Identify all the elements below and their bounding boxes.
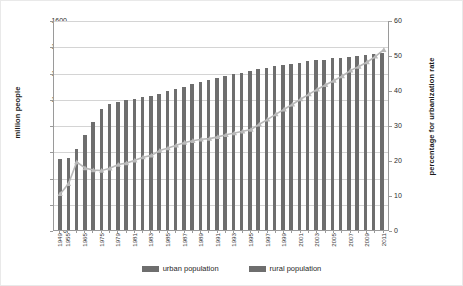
- bar-slot: [89, 21, 97, 230]
- right-axis-tick-mark: [389, 21, 392, 22]
- x-axis-tick-labels: 1949195519651975197919811983198519871989…: [53, 232, 389, 262]
- bar-slot: [155, 21, 163, 230]
- bar-slot: [337, 21, 345, 230]
- x-axis-tick-mark: [126, 231, 127, 233]
- bar-slot: [287, 21, 295, 230]
- right-axis-tick-label: 50: [394, 52, 424, 59]
- x-axis-tick-label: 1993: [230, 233, 237, 247]
- bar: [207, 80, 210, 230]
- bar: [108, 104, 111, 230]
- bar: [240, 73, 243, 230]
- legend-swatch: [142, 266, 159, 272]
- x-tick-slot: 1991: [213, 232, 221, 262]
- bar-slot: [97, 21, 105, 230]
- x-tick-slot: [138, 232, 146, 262]
- bar: [281, 65, 284, 230]
- right-axis-tick-mark: [389, 56, 392, 57]
- right-axis-tick-label: 30: [394, 122, 424, 129]
- bar: [199, 82, 202, 230]
- x-tick-slot: [171, 232, 179, 262]
- bar: [314, 60, 317, 230]
- x-axis-tick-mark: [142, 231, 143, 233]
- x-tick-slot: 1965: [80, 232, 88, 262]
- bar-slot: [295, 21, 303, 230]
- x-tick-slot: 1983: [146, 232, 154, 262]
- bar: [116, 102, 119, 230]
- right-axis-tick-label: 20: [394, 157, 424, 164]
- x-axis-tick-label: 1997: [263, 233, 270, 247]
- x-axis-tick-mark: [159, 231, 160, 233]
- x-tick-slot: [105, 232, 113, 262]
- x-tick-slot: [370, 232, 378, 262]
- bar-slot: [312, 21, 320, 230]
- x-tick-slot: 1993: [229, 232, 237, 262]
- right-axis-tick-mark: [389, 196, 392, 197]
- bar: [306, 61, 309, 230]
- x-tick-slot: 2011: [379, 232, 387, 262]
- chart-container: million people percentage for urbanizati…: [0, 0, 463, 286]
- bar: [190, 84, 193, 230]
- bar-slot: [246, 21, 254, 230]
- x-tick-slot: [238, 232, 246, 262]
- x-axis-tick-label: 1999: [280, 233, 287, 247]
- bar-slot: [81, 21, 89, 230]
- bar-slot: [304, 21, 312, 230]
- x-tick-slot: [271, 232, 279, 262]
- legend-label: rural population: [270, 264, 322, 273]
- bar-slot: [345, 21, 353, 230]
- bar: [372, 54, 375, 230]
- x-tick-slot: 1999: [279, 232, 287, 262]
- bar: [67, 158, 70, 230]
- bar: [124, 100, 127, 230]
- x-axis-tick-mark: [208, 231, 209, 233]
- legend-item[interactable]: rural population: [249, 264, 322, 273]
- bar: [248, 71, 251, 230]
- x-axis-tick-mark: [242, 231, 243, 233]
- x-axis-tick-label: 2003: [313, 233, 320, 247]
- x-tick-slot: 1997: [262, 232, 270, 262]
- left-axis-title: million people: [13, 65, 22, 161]
- bar-slot: [196, 21, 204, 230]
- x-axis-tick-label: 1983: [147, 233, 154, 247]
- x-tick-slot: 2009: [362, 232, 370, 262]
- x-axis-tick-mark: [374, 231, 375, 233]
- bar: [215, 78, 218, 230]
- x-axis-tick-mark: [275, 231, 276, 233]
- bar-slot: [238, 21, 246, 230]
- bar-slot: [279, 21, 287, 230]
- x-axis-tick-label: 1987: [180, 233, 187, 247]
- x-tick-slot: [321, 232, 329, 262]
- x-axis-tick-label: 1991: [213, 233, 220, 247]
- x-tick-slot: 1955: [63, 232, 71, 262]
- bar-slot: [320, 21, 328, 230]
- bar: [166, 91, 169, 230]
- bar-slot: [378, 21, 386, 230]
- bar-slot: [361, 21, 369, 230]
- x-tick-slot: 1949: [55, 232, 63, 262]
- bar: [289, 64, 292, 230]
- right-axis-tick-label: 10: [394, 192, 424, 199]
- bar: [256, 69, 259, 230]
- x-tick-slot: [221, 232, 229, 262]
- x-axis-tick-label: 2011: [379, 233, 386, 246]
- bar-slot: [221, 21, 229, 230]
- legend-label: urban population: [163, 264, 219, 273]
- bar-slot: [229, 21, 237, 230]
- x-tick-slot: [287, 232, 295, 262]
- x-tick-slot: 1995: [246, 232, 254, 262]
- x-tick-slot: [72, 232, 80, 262]
- x-tick-slot: [254, 232, 262, 262]
- bar: [58, 159, 61, 230]
- x-tick-slot: 2007: [345, 232, 353, 262]
- right-axis-tick-label: 0: [394, 227, 424, 234]
- bar-slot: [213, 21, 221, 230]
- legend-item[interactable]: urban population: [142, 264, 219, 273]
- bar-slot: [353, 21, 361, 230]
- x-tick-slot: 2001: [296, 232, 304, 262]
- x-axis-tick-mark: [341, 231, 342, 233]
- chart-legend: urban populationrural population: [0, 264, 463, 273]
- x-axis-tick-label: 2005: [329, 233, 336, 247]
- x-axis-tick-label: 1975: [97, 233, 104, 247]
- x-tick-slot: 2003: [312, 232, 320, 262]
- x-tick-slot: 1975: [96, 232, 104, 262]
